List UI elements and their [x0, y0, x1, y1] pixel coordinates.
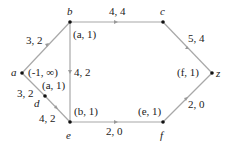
arrow-icon [114, 120, 118, 124]
arrow-icon [114, 20, 118, 24]
edge-label-b-c: 4, 4 [109, 6, 126, 17]
edge-label-b-e: 4, 2 [74, 67, 91, 78]
node-c [161, 20, 165, 24]
edge-label-a-b: 3, 2 [26, 35, 43, 46]
node-b [68, 20, 72, 24]
node-label-z: z [216, 68, 220, 79]
node-mark-e: (b, 1) [74, 106, 98, 117]
edge-label-c-z: 5, 4 [188, 33, 205, 44]
node-label-d: d [34, 98, 40, 109]
node-a [20, 71, 24, 75]
node-mark-b: (a, 1) [73, 29, 96, 40]
node-mark-f: (e, 1) [138, 106, 161, 117]
node-label-b: b [67, 6, 73, 17]
node-label-f: f [160, 130, 163, 141]
node-mark-a: (-1, ∞) [28, 67, 58, 78]
node-e [68, 120, 72, 124]
edge-label-a-d: 3, 2 [17, 88, 34, 99]
node-mark-z: (f, 1) [177, 67, 199, 78]
edge-label-d-e: 4, 2 [39, 113, 56, 124]
arrow-icon [68, 70, 72, 74]
node-label-a: a [11, 67, 17, 78]
edge-label-e-f: 2, 0 [106, 126, 123, 137]
edge-label-f-z: 2, 0 [188, 99, 205, 110]
node-label-e: e [66, 130, 71, 141]
node-z [210, 71, 214, 75]
arrow-icon [185, 46, 189, 49]
node-label-c: c [160, 6, 165, 17]
node-mark-d: (a, 1) [42, 80, 65, 91]
node-d [43, 94, 47, 98]
node-f [161, 120, 165, 124]
